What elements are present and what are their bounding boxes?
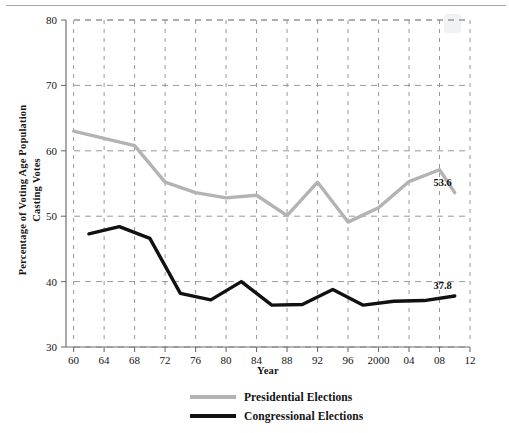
x-tick-label: 60 xyxy=(68,354,80,366)
y-axis-title-line2: Casting Votes xyxy=(31,158,42,222)
y-axis-title-line1: Percentage of Voting Age Population xyxy=(17,105,28,276)
x-tick-label: 88 xyxy=(282,354,294,366)
x-tick-label: 80 xyxy=(221,354,233,366)
y-tick-label: 30 xyxy=(46,341,58,353)
data-point-label: 37.8 xyxy=(433,280,451,291)
series-line xyxy=(89,227,455,305)
y-tick-label: 60 xyxy=(46,145,58,157)
x-tick-label: 04 xyxy=(404,354,416,366)
y-tick-marks xyxy=(61,20,66,347)
x-tick-label: 96 xyxy=(343,354,355,366)
y-tick-label: 70 xyxy=(46,79,58,91)
series-lines xyxy=(74,131,455,305)
data-point-label: 53.6 xyxy=(433,177,451,188)
chart-legend: Presidential ElectionsCongressional Elec… xyxy=(190,391,364,423)
y-tick-label: 80 xyxy=(46,14,58,26)
legend-label: Congressional Elections xyxy=(244,410,364,423)
y-tick-label: 50 xyxy=(46,210,58,222)
x-tick-label: 08 xyxy=(434,354,446,366)
x-tick-label: 68 xyxy=(129,354,141,366)
series-annotations: 53.637.8 xyxy=(433,177,451,291)
x-axis-title: Year xyxy=(257,365,279,376)
x-tick-marks xyxy=(74,347,470,352)
x-tick-label: 2000 xyxy=(368,354,391,366)
x-tick-label: 12 xyxy=(465,354,476,366)
grid-lines xyxy=(74,20,470,347)
watermark-artifact xyxy=(444,14,461,33)
x-tick-label: 76 xyxy=(190,354,202,366)
y-tick-labels: 304050607080 xyxy=(46,14,58,353)
legend-label: Presidential Elections xyxy=(244,391,353,403)
chart-figure: 304050607080 606468727680848892962000040… xyxy=(0,0,509,433)
x-tick-label: 92 xyxy=(312,354,323,366)
line-chart-canvas: 304050607080 606468727680848892962000040… xyxy=(0,0,509,433)
x-tick-label: 64 xyxy=(99,354,111,366)
x-tick-label: 72 xyxy=(160,354,171,366)
y-tick-label: 40 xyxy=(46,276,58,288)
series-line xyxy=(74,131,455,222)
